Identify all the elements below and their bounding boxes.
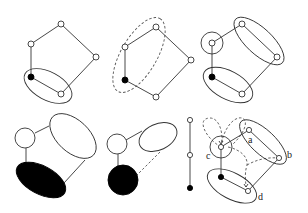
- group-ellipse-bottom: [198, 60, 259, 110]
- node: [153, 24, 159, 30]
- arrow-mark: [244, 184, 248, 187]
- diagram-canvas: a b c d: [0, 0, 308, 213]
- dashed-group-ellipse: [102, 10, 175, 101]
- dashed-curve: [247, 158, 279, 165]
- node-filled: [28, 74, 34, 80]
- contracted-filled-circle: [108, 165, 138, 195]
- graph-edges: [212, 24, 277, 94]
- node-b: [276, 155, 281, 160]
- node: [209, 40, 215, 46]
- node: [28, 41, 34, 47]
- node: [153, 94, 159, 100]
- node-filled: [187, 185, 192, 190]
- panel-4: [11, 105, 105, 205]
- contracted-circle: [107, 134, 127, 154]
- dashed-curve: [228, 147, 247, 187]
- node: [274, 54, 280, 60]
- node-a: [246, 127, 251, 132]
- graph-edges: [125, 27, 191, 97]
- group-ellipse-top: [227, 10, 292, 73]
- dashed-loop-left: [203, 118, 222, 147]
- arrow-mark: [219, 141, 223, 144]
- contracted-circle: [15, 128, 35, 148]
- node-d: [245, 188, 250, 193]
- group-ellipse-ab: [233, 113, 293, 171]
- dashed-loop-right: [221, 118, 245, 147]
- node-filled: [122, 77, 128, 83]
- label-b: b: [287, 149, 292, 160]
- panel-2: [102, 10, 194, 101]
- edge: [35, 126, 49, 133]
- node: [239, 21, 245, 27]
- node: [188, 57, 194, 63]
- contracted-filled-ellipse: [11, 155, 72, 205]
- panel-1: [18, 21, 99, 111]
- panel-3: [198, 10, 292, 110]
- label-a: a: [248, 134, 253, 145]
- contracted-ellipse: [134, 117, 181, 157]
- graph-edges: [31, 24, 96, 94]
- node: [187, 117, 192, 122]
- edge: [64, 160, 85, 183]
- node-c: [218, 144, 223, 149]
- node: [239, 91, 245, 97]
- node: [58, 91, 64, 97]
- dashed-edge: [137, 152, 160, 175]
- node: [93, 54, 99, 60]
- node-filled: [218, 174, 223, 179]
- panel-7: a b c d: [202, 113, 293, 210]
- node: [58, 21, 64, 27]
- panel-6: [187, 117, 192, 190]
- label-d: d: [258, 191, 263, 202]
- node: [122, 44, 128, 50]
- node: [187, 152, 192, 157]
- contracted-ellipse: [42, 105, 105, 167]
- node-filled: [209, 74, 215, 80]
- panel-5: [107, 117, 182, 195]
- label-c: c: [206, 150, 211, 161]
